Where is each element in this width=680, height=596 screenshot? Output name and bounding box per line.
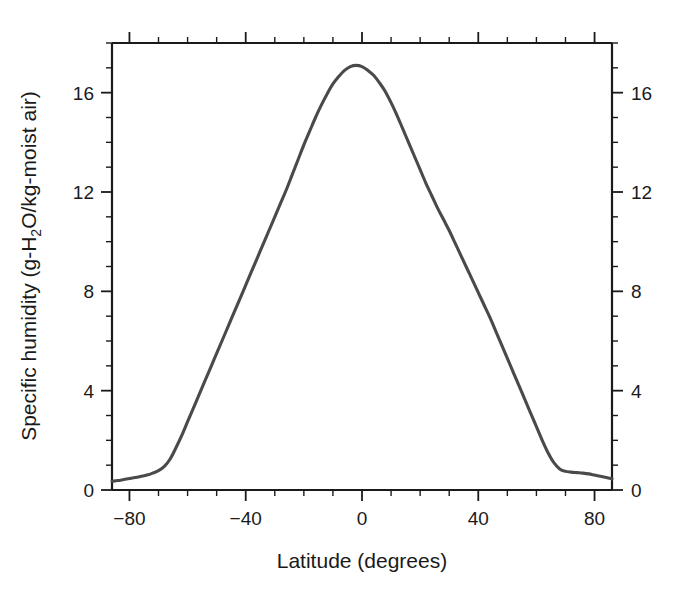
y-tick-label-right: 16 — [631, 83, 652, 104]
y-tick-label-left: 12 — [73, 182, 94, 203]
y-tick-label-left: 16 — [73, 83, 94, 104]
x-tick-label: 0 — [357, 508, 368, 529]
y-tick-label-right: 0 — [631, 480, 642, 501]
chart-figure: −80−4004080 0481216 0481216 Latitude (de… — [0, 0, 680, 596]
x-tick-label: −80 — [113, 508, 145, 529]
x-tick-label: −40 — [230, 508, 262, 529]
y-tick-label-right: 8 — [631, 281, 642, 302]
y-tick-label-right: 4 — [631, 381, 642, 402]
chart-background — [0, 0, 680, 596]
y-tick-label-right: 12 — [631, 182, 652, 203]
x-axis-title: Latitude (degrees) — [277, 549, 447, 572]
x-tick-label: 40 — [468, 508, 489, 529]
y-tick-label-left: 0 — [83, 480, 94, 501]
x-tick-label: 80 — [584, 508, 605, 529]
y-tick-label-left: 4 — [83, 381, 94, 402]
y-tick-label-left: 8 — [83, 281, 94, 302]
y-axis-title: Specific humidity (g-H2O/kg-moist air) — [17, 91, 44, 441]
specific-humidity-latitude-chart: −80−4004080 0481216 0481216 Latitude (de… — [0, 0, 680, 596]
